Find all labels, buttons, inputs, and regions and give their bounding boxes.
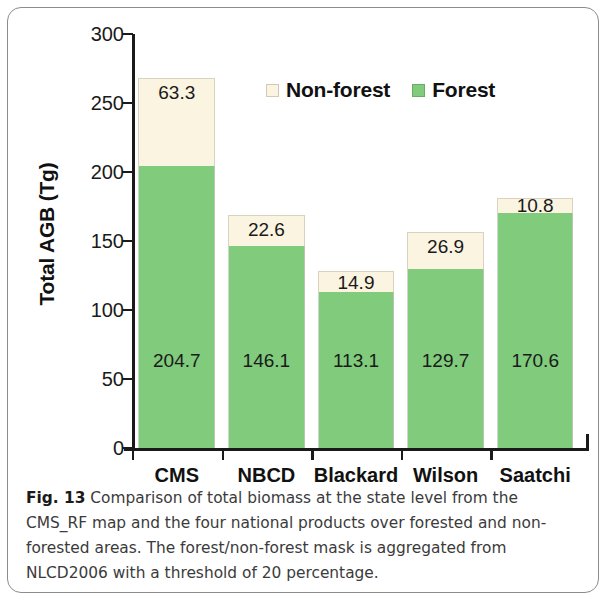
bar-value-label-non-forest: 26.9 <box>408 236 483 258</box>
bar-segment-non-forest[interactable]: 26.9 <box>407 232 484 269</box>
figure-card: Total AGB (Tg) 050100150200250300 204.76… <box>0 0 608 602</box>
bar-segment-non-forest[interactable]: 22.6 <box>228 215 305 246</box>
figure-caption: Fig. 13 Comparison of total biomass at t… <box>26 486 578 586</box>
figure-caption-text: Comparison of total biomass at the state… <box>26 489 546 582</box>
bar-segment-non-forest[interactable]: 10.8 <box>497 198 574 213</box>
x-axis-label-blackard: Blackard <box>314 464 399 487</box>
x-axis-tick-mark <box>401 448 403 460</box>
x-axis-label-wilson: Wilson <box>413 464 478 487</box>
bar-value-label-forest: 170.6 <box>498 350 573 372</box>
x-axis-label-nbcd: NBCD <box>238 464 296 487</box>
bar-value-label-forest: 204.7 <box>139 350 214 372</box>
bar-value-label-forest: 113.1 <box>319 350 394 372</box>
bar-group[interactable]: 204.763.3 <box>138 34 215 448</box>
y-axis-tick-label: 300 <box>66 23 124 46</box>
bar-segment-non-forest[interactable]: 14.9 <box>318 271 395 292</box>
y-axis-tick-label: 250 <box>66 92 124 115</box>
forest-swatch-icon <box>412 84 425 97</box>
legend-item-forest[interactable]: Forest <box>412 78 495 102</box>
bar-segment-forest[interactable]: 113.1 <box>318 292 395 448</box>
bar-segment-non-forest[interactable]: 63.3 <box>138 78 215 165</box>
x-axis-label-saatchi: Saatchi <box>500 464 571 487</box>
y-axis-title: Total AGB (Tg) <box>35 139 59 329</box>
bar-segment-forest[interactable]: 204.7 <box>138 166 215 448</box>
x-axis-tick-mark <box>132 448 134 460</box>
x-axis-label-cms: CMS <box>155 464 199 487</box>
legend-label-non-forest: Non-forest <box>286 78 390 102</box>
bar-segment-forest[interactable]: 170.6 <box>497 213 574 448</box>
y-axis-tick-label: 50 <box>66 368 124 391</box>
bar-value-label-forest: 129.7 <box>408 350 483 372</box>
chart-legend: Non-forest Forest <box>266 78 495 102</box>
y-axis-tick-label: 150 <box>66 230 124 253</box>
bar-value-label-non-forest: 14.9 <box>319 272 394 294</box>
x-axis-tick-mark <box>222 448 224 460</box>
figure-caption-label: Fig. 13 <box>26 489 85 507</box>
y-axis-tick-label: 100 <box>66 299 124 322</box>
bar-value-label-non-forest: 22.6 <box>229 219 304 241</box>
chart-area: Total AGB (Tg) 050100150200250300 204.76… <box>14 16 594 478</box>
nonforest-swatch-icon <box>266 84 279 97</box>
legend-label-forest: Forest <box>432 78 495 102</box>
y-axis-tick-label: 200 <box>66 161 124 184</box>
legend-item-non-forest[interactable]: Non-forest <box>266 78 390 102</box>
bar-value-label-forest: 146.1 <box>229 350 304 372</box>
bar-group[interactable]: 170.610.8 <box>497 34 574 448</box>
x-axis-endcap <box>586 434 589 450</box>
x-axis-tick-mark <box>311 448 313 460</box>
bar-segment-forest[interactable]: 146.1 <box>228 246 305 448</box>
bar-value-label-non-forest: 63.3 <box>139 82 214 104</box>
x-axis-line <box>124 448 589 451</box>
bar-segment-forest[interactable]: 129.7 <box>407 269 484 448</box>
bar-value-label-non-forest: 10.8 <box>498 195 573 217</box>
x-axis-tick-mark <box>490 448 492 460</box>
y-axis-tick-label: 0 <box>66 437 124 460</box>
